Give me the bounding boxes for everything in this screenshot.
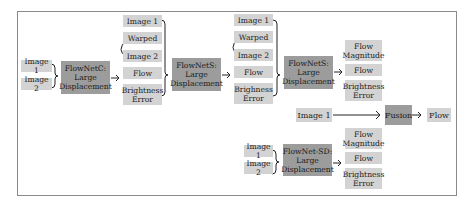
stage1-out-image1: Image 1 xyxy=(123,15,162,27)
fusion-box: Fusion xyxy=(385,105,412,125)
stage1-input-image2: Image 2 xyxy=(21,78,52,90)
stage2-out-image2: Image 2 xyxy=(234,49,273,61)
stage2-out-flow: Flow xyxy=(234,66,273,78)
stage1-out-brightness-error: Brightness Error xyxy=(123,84,162,105)
stage2-out-image1: Image 1 xyxy=(234,14,273,26)
sd-input-image1: Image 1 xyxy=(244,145,273,157)
stage1-out-flow: Flow xyxy=(123,67,162,79)
stage3-out-flow-magnitude: Flow Magnitude xyxy=(345,40,382,61)
sd-out-flow-magnitude: Flow Magnitude xyxy=(345,128,382,149)
stage1-input-image1: Image 1 xyxy=(21,60,52,72)
final-flow-output: Flow xyxy=(427,108,451,122)
stage3-out-brightness-error: Brightness Error xyxy=(345,80,382,101)
stage2-out-brightness-error: Brighness Error xyxy=(234,83,273,104)
flownets-box-1: FlowNetS: Large Displacement xyxy=(172,58,221,91)
flownetc-box: FlowNetC: Large Displacement xyxy=(61,61,110,94)
stage1-out-image2: Image 2 xyxy=(123,50,162,62)
flownet-sd-box: FlowNet-SD: Large Displacement xyxy=(283,144,332,176)
sd-input-image2: Image 2 xyxy=(244,162,273,174)
stage2-out-warped: Warped xyxy=(234,31,273,43)
fusion-input-image1: Image 1 xyxy=(296,108,332,122)
sd-out-brightness-error: Brightness Error xyxy=(345,168,382,189)
stage1-out-warped: Warped xyxy=(123,32,162,44)
flownets-box-2: FlowNetS: Large Displacement xyxy=(284,56,333,89)
sd-out-flow: Flow xyxy=(345,152,382,164)
stage3-out-flow: Flow xyxy=(345,64,382,76)
